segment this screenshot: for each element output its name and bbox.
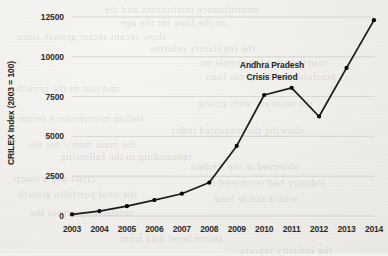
- data-point-marker: [125, 204, 129, 208]
- data-point-marker: [235, 144, 239, 148]
- data-point-marker: [317, 114, 321, 118]
- data-point-marker: [290, 86, 294, 90]
- y-tick-label: 12500: [22, 12, 64, 22]
- annotation-andhra-pradesh-crisis: Andhra Pradesh Crisis Period: [212, 59, 332, 83]
- data-point-marker: [97, 209, 101, 213]
- annotation-line-1: Andhra Pradesh: [212, 59, 332, 71]
- y-tick-label: 10000: [22, 52, 64, 62]
- data-point-marker: [372, 18, 376, 22]
- y-tick-label: 7500: [22, 92, 64, 102]
- y-tick-label: 0: [22, 211, 64, 221]
- data-point-marker: [344, 66, 348, 70]
- x-tick-label: 2014: [357, 224, 388, 234]
- data-point-marker: [152, 198, 156, 202]
- series-polyline: [72, 20, 374, 214]
- data-line: [72, 20, 374, 214]
- data-point-marker: [70, 212, 74, 216]
- annotation-line-2: Crisis Period: [212, 71, 332, 83]
- data-markers: [70, 18, 376, 216]
- data-point-marker: [262, 93, 266, 97]
- data-point-marker: [180, 192, 184, 196]
- y-tick-label: 2500: [22, 171, 64, 181]
- gridlines: [72, 17, 374, 216]
- y-axis-title: CRILEX Index (2003 = 100): [6, 38, 16, 188]
- data-point-marker: [207, 180, 211, 184]
- y-tick-label: 5000: [22, 131, 64, 141]
